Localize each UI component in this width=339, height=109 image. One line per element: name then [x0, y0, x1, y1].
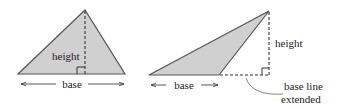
right-triangle-figure: height base base line extended [149, 11, 323, 105]
left-height-label: height [52, 50, 80, 62]
annotation-base-line-label: base line [284, 80, 323, 92]
annotation-extended-label: extended [281, 93, 321, 105]
left-triangle [18, 10, 125, 74]
right-right-angle-marker [262, 68, 269, 75]
triangle-height-diagram: height base height base base line extend… [0, 0, 339, 109]
right-triangle [149, 11, 269, 75]
annotation-curve-pointer [246, 78, 283, 94]
right-height-label: height [275, 37, 303, 49]
left-base-label: base [62, 78, 82, 90]
left-triangle-figure: height base [18, 10, 125, 90]
right-base-label: base [174, 79, 194, 91]
